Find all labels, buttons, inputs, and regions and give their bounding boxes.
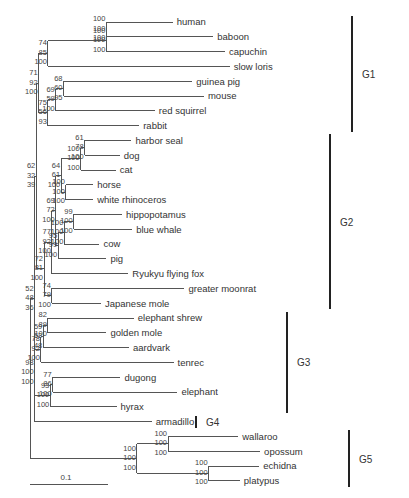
taxon-label-golden-mole: golden mole bbox=[110, 327, 162, 338]
taxon-label-tenrec: tenrec bbox=[178, 357, 205, 368]
support-value-gp_mouse-1: 60 bbox=[54, 83, 62, 92]
support-value-non_eutherian-0: 100 bbox=[123, 444, 136, 453]
taxon-label-guinea-pig: guinea pig bbox=[196, 76, 240, 87]
support-value-tethytheria-1: 86 bbox=[43, 379, 51, 388]
support-value-gp_mouse-2: 95 bbox=[54, 93, 62, 102]
support-value-euarchontoglires-1: 92 bbox=[29, 78, 37, 87]
group-label-g3: G3 bbox=[297, 357, 311, 368]
support-value-eutheria-1: 48 bbox=[25, 293, 33, 302]
group-label-g2: G2 bbox=[340, 217, 354, 228]
support-value-l2-1: 72 bbox=[46, 205, 54, 214]
support-value-catarrhini-0: 100 bbox=[93, 14, 106, 23]
support-value-fereungulata-0: 64 bbox=[52, 161, 60, 170]
support-value-monotremes-0: 100 bbox=[195, 458, 208, 467]
support-value-cetruminantia-2: 100 bbox=[51, 237, 64, 246]
support-value-monotremes-1: 100 bbox=[195, 468, 208, 477]
support-value-perisso-1: 100 bbox=[52, 187, 65, 196]
support-value-euarchontoglires-2: 100 bbox=[25, 87, 38, 96]
taxon-label-cow: cow bbox=[103, 238, 120, 249]
support-value-marsupials-1: 100 bbox=[155, 438, 168, 447]
taxon-label-armadillo: armadillo bbox=[156, 416, 195, 427]
taxon-label-ryukyu-flying-fox: Ryukyu flying fox bbox=[132, 268, 204, 279]
taxon-label-pig: pig bbox=[110, 253, 123, 264]
support-value-perisso-0: 100 bbox=[52, 177, 65, 186]
phylogenetic-tree: 5248366232397192100748510010010010010010… bbox=[0, 0, 409, 498]
taxon-label-mouse: mouse bbox=[208, 90, 237, 101]
support-value-whippo-0: 99 bbox=[64, 207, 72, 216]
support-value-es_gm-0: 82 bbox=[39, 310, 47, 319]
taxon-label-hippopotamus: hippopotamus bbox=[126, 209, 186, 220]
scale-bar-label: 0.1 bbox=[60, 473, 72, 482]
support-value-tethytheria-2: 100 bbox=[39, 389, 52, 398]
support-value-tethytheria-0: 77 bbox=[43, 370, 51, 379]
support-value-marsupials-0: 100 bbox=[155, 429, 168, 438]
support-value-afro_xen-2: 100 bbox=[21, 377, 34, 386]
group-label-g5: G5 bbox=[359, 454, 373, 465]
taxon-label-dugong: dugong bbox=[124, 372, 156, 383]
support-value-eulipotyphla-2: 100 bbox=[38, 300, 51, 309]
support-value-glires-2: 93 bbox=[39, 117, 47, 126]
taxon-label-baboon: baboon bbox=[217, 31, 249, 42]
support-value-whippo-2: 100 bbox=[60, 226, 73, 235]
taxon-label-human: human bbox=[177, 16, 206, 27]
support-value-es_gm-2: 100 bbox=[34, 329, 47, 338]
support-value-es_gm-1: 89 bbox=[39, 320, 47, 329]
support-value-boreo_lauras-1: 32 bbox=[27, 171, 35, 180]
support-value-eutheria-2: 36 bbox=[25, 303, 33, 312]
group-label-g1: G1 bbox=[362, 69, 376, 80]
support-value-afro_xen-1: 100 bbox=[21, 367, 34, 376]
support-value-laurasiatheria-0: 72 bbox=[35, 254, 43, 263]
support-value-afrotheria-2: 100 bbox=[27, 353, 40, 362]
taxon-label-greater-moonrat: greater moonrat bbox=[188, 283, 256, 294]
support-value-marsupials-2: 100 bbox=[155, 448, 168, 457]
group-label-g4: G4 bbox=[206, 417, 220, 428]
support-value-rodents-2: 100 bbox=[42, 104, 55, 113]
taxon-label-japanese-mole: Japanese mole bbox=[105, 298, 169, 309]
scale-bar: 0.1 bbox=[30, 473, 108, 484]
support-value-boreo_lauras-2: 39 bbox=[27, 180, 35, 189]
taxon-label-platypus: platypus bbox=[244, 475, 280, 486]
support-value-eutheria-0: 52 bbox=[25, 284, 33, 293]
taxon-label-hyrax: hyrax bbox=[121, 401, 144, 412]
taxon-label-horse: horse bbox=[97, 179, 121, 190]
taxon-label-wallaroo: wallaroo bbox=[241, 431, 277, 442]
support-value-boreo_lauras-0: 62 bbox=[27, 161, 35, 170]
taxon-label-slow-loris: slow loris bbox=[234, 61, 273, 72]
support-value-primates-0: 74 bbox=[39, 38, 47, 47]
taxon-label-cat: cat bbox=[120, 164, 133, 175]
taxon-label-rabbit: rabbit bbox=[143, 120, 167, 131]
support-value-monotremes-2: 100 bbox=[195, 477, 208, 486]
taxon-label-blue-whale: blue whale bbox=[136, 224, 181, 235]
support-value-afroinsectiphilia-2: 48 bbox=[34, 341, 42, 350]
taxon-label-elephant-shrew: elephant shrew bbox=[138, 312, 203, 323]
support-value-eulipotyphla-1: 79 bbox=[42, 290, 50, 299]
support-value-eulipotyphla-0: 74 bbox=[42, 281, 50, 290]
support-value-paenungulata-2: 100 bbox=[37, 400, 50, 409]
taxon-label-opossum: opossum bbox=[264, 446, 303, 457]
taxon-label-aardvark: aardvark bbox=[133, 342, 170, 353]
taxon-labels: humanbabooncapuchinslow lorisguinea pigm… bbox=[96, 16, 303, 486]
taxon-label-harbor-seal: harbor seal bbox=[135, 135, 183, 146]
support-value-gp_mouse-0: 68 bbox=[54, 74, 62, 83]
taxon-label-dog: dog bbox=[124, 150, 140, 161]
support-value-laurasiatheria-2: 100 bbox=[31, 273, 44, 282]
support-value-caniformia-2: 100 bbox=[71, 152, 84, 161]
taxon-label-red-squirrel: red squirrel bbox=[159, 105, 207, 116]
support-value-laurasiatheria-1: 81 bbox=[35, 263, 43, 272]
support-value-non_eutherian-1: 100 bbox=[123, 453, 136, 462]
support-value-primates-1: 85 bbox=[39, 48, 47, 57]
support-value-caniformia-0: 61 bbox=[75, 133, 83, 142]
taxon-label-white-rhinoceros: white rhinoceros bbox=[96, 194, 166, 205]
taxon-label-capuchin: capuchin bbox=[229, 46, 267, 57]
support-value-whippo-1: 100 bbox=[60, 216, 73, 225]
support-value-non_eutherian-2: 100 bbox=[123, 463, 136, 472]
taxon-label-elephant: elephant bbox=[181, 386, 218, 397]
support-value-primates-2: 100 bbox=[34, 57, 47, 66]
support-value-catarrhini-1: 100 bbox=[93, 24, 106, 33]
support-value-catarrhini-2: 100 bbox=[93, 33, 106, 42]
support-value-anthropoids-2: 100 bbox=[93, 45, 106, 54]
support-value-cetartiodactyla-2: 100 bbox=[45, 250, 58, 259]
support-value-caniformia-1: 78 bbox=[75, 142, 83, 151]
support-value-carnivora-2: 100 bbox=[67, 163, 80, 172]
support-value-euarchontoglires-0: 71 bbox=[29, 68, 37, 77]
